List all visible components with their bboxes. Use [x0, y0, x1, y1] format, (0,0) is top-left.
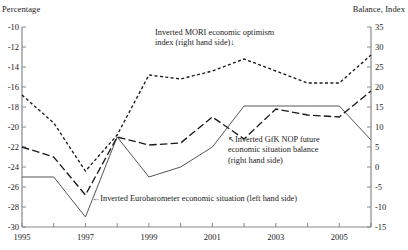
- left-axis-tick-label: -12: [8, 43, 19, 52]
- annotation-gfk: ↖Inverted GfK NOP future economic situat…: [228, 135, 320, 166]
- annotation-mori-line1: Inverted MORI economic optimism: [155, 28, 274, 38]
- x-axis-tick-label: 2005: [324, 233, 354, 242]
- right-axis-tick-label: 15: [375, 103, 384, 112]
- left-axis-tick-label: -24: [8, 163, 19, 172]
- left-axis-tick-label: -16: [8, 83, 19, 92]
- annotation-mori: Inverted MORI economic optimism index (r…: [155, 28, 274, 49]
- x-axis-tick-label: 1995: [7, 233, 37, 242]
- right-axis-tick-label: 10: [375, 123, 384, 132]
- right-axis-tick-label: 30: [375, 43, 384, 52]
- left-axis-tick-label: -22: [8, 143, 19, 152]
- left-axis-tick-label: -28: [8, 203, 19, 212]
- x-axis-tick-label: 2003: [261, 233, 291, 242]
- right-axis-tick-label: -15: [375, 223, 386, 232]
- left-axis-tick-label: -20: [8, 123, 19, 132]
- left-axis-tick-label: -30: [8, 223, 19, 232]
- right-axis-tick-label: 5: [375, 143, 379, 152]
- right-axis-tick-label: 20: [375, 83, 384, 92]
- annotation-gfk-line2: economic situation balance: [228, 145, 320, 155]
- annotation-eurobarometer-line1: ←Inverted Eurobarometer economic situati…: [92, 194, 297, 204]
- annotation-gfk-line3: (right hand side): [228, 156, 320, 166]
- chart-container: Percentage Balance, Index Inverted MORI …: [0, 0, 408, 250]
- left-axis-tick-label: -26: [8, 183, 19, 192]
- annotation-mori-line2: index (right hand side)↓: [155, 38, 274, 48]
- left-axis-tick-label: -14: [8, 63, 19, 72]
- x-axis-tick-label: 1997: [70, 233, 100, 242]
- x-axis-tick-label: 2001: [197, 233, 227, 242]
- right-axis-tick-label: 25: [375, 63, 384, 72]
- left-axis-tick-label: -18: [8, 103, 19, 112]
- x-axis-tick-label: 1999: [134, 233, 164, 242]
- right-axis-tick-label: 35: [375, 23, 384, 32]
- left-axis-tick-label: -10: [8, 23, 19, 32]
- right-axis-tick-label: 0: [375, 163, 379, 172]
- right-axis-tick-label: -5: [375, 183, 382, 192]
- right-axis-tick-label: -10: [375, 203, 386, 212]
- annotation-gfk-line1: ↖Inverted GfK NOP future: [228, 135, 320, 145]
- annotation-eurobarometer: ←Inverted Eurobarometer economic situati…: [92, 194, 297, 204]
